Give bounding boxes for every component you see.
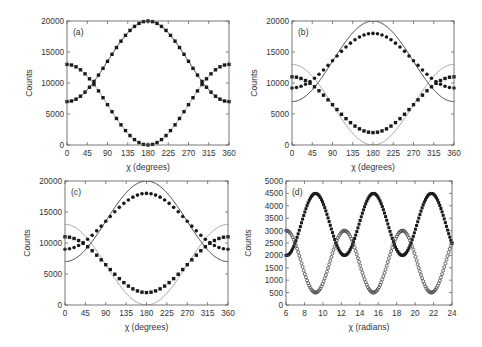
y-tick-label: 15000 [266, 48, 289, 57]
panel-d: 6810121416182022240500100015002000250030… [243, 177, 457, 332]
x-tick-label: 90 [328, 149, 338, 158]
y-tick-label: 1500 [265, 264, 284, 273]
x-tick-label: 18 [392, 309, 402, 318]
y-tick-label: 5000 [265, 177, 284, 186]
y-tick-label: 15000 [41, 48, 64, 57]
y-tick-label: 5000 [44, 270, 63, 279]
y-tick-label: 0 [57, 301, 62, 310]
x-tick-label: 12 [337, 309, 347, 318]
y-tick-label: 0 [284, 141, 289, 150]
x-tick-label: 225 [160, 309, 174, 318]
panel-label: (d) [292, 187, 303, 197]
x-tick-label: 270 [180, 309, 194, 318]
series-data-falling [290, 75, 455, 134]
x-tick-label: 0 [290, 149, 295, 158]
y-tick-label: 4000 [265, 202, 284, 211]
x-tick-label: 225 [386, 149, 400, 158]
x-tick-label: 270 [182, 149, 196, 158]
x-tick-label: 16 [374, 309, 384, 318]
y-axis-label: Counts [249, 69, 259, 96]
y-tick-label: 10000 [41, 79, 64, 88]
y-tick-label: 0 [59, 141, 64, 150]
plot-frame [65, 181, 228, 305]
plot-frame [292, 21, 454, 145]
y-tick-label: 3000 [265, 227, 284, 236]
y-tick-label: 10000 [39, 239, 62, 248]
y-tick-label: 15000 [39, 208, 62, 217]
y-tick-label: 10000 [266, 79, 289, 88]
x-tick-label: 45 [308, 149, 318, 158]
x-tick-label: 135 [346, 149, 360, 158]
x-tick-label: 6 [284, 309, 289, 318]
x-axis-label: χ (degrees) [126, 162, 170, 172]
y-tick-label: 500 [269, 289, 283, 298]
panel-label: (a) [73, 27, 84, 37]
x-tick-label: 90 [103, 149, 113, 158]
panel-label: (b) [298, 27, 309, 37]
y-tick-label: 4500 [265, 189, 284, 198]
y-tick-label: 20000 [39, 177, 62, 186]
plot-frame [67, 21, 229, 145]
figure: 0459013518022527031536005000100001500020… [0, 0, 482, 347]
y-axis-label: Counts [24, 69, 34, 96]
x-tick-label: 360 [447, 149, 461, 158]
panel-b: 0459013518022527031536005000100001500020… [249, 17, 461, 172]
y-tick-label: 2500 [265, 239, 284, 248]
y-tick-label: 5000 [271, 110, 290, 119]
series-data-falling [63, 235, 229, 294]
x-tick-label: 225 [161, 149, 175, 158]
x-axis-label: χ (degrees) [351, 162, 395, 172]
x-axis-label: χ (degrees) [125, 322, 169, 332]
x-tick-label: 90 [101, 309, 111, 318]
x-tick-label: 0 [63, 309, 68, 318]
series-data-rising [63, 192, 230, 251]
series-data-rising [65, 19, 230, 103]
x-tick-label: 360 [222, 149, 236, 158]
panel-c: 0459013518022527031536005000100001500020… [22, 177, 235, 332]
x-axis-label: χ (radians) [349, 322, 390, 332]
y-tick-label: 3500 [265, 214, 284, 223]
x-tick-label: 8 [302, 309, 307, 318]
theory-line [67, 21, 229, 102]
theory-line [67, 64, 229, 145]
x-tick-label: 45 [83, 149, 93, 158]
series-data-lower [285, 229, 454, 294]
series-data-rising [290, 32, 456, 90]
y-tick-label: 2000 [265, 251, 284, 260]
y-tick-label: 5000 [46, 110, 65, 119]
x-tick-label: 0 [65, 149, 70, 158]
x-tick-label: 10 [318, 309, 328, 318]
x-tick-label: 14 [355, 309, 365, 318]
x-tick-label: 315 [427, 149, 441, 158]
y-tick-label: 20000 [266, 17, 289, 26]
y-tick-label: 1000 [265, 276, 284, 285]
x-tick-label: 180 [141, 149, 155, 158]
y-tick-label: 20000 [41, 17, 64, 26]
series-data-falling [65, 63, 230, 147]
y-tick-label: 0 [278, 301, 283, 310]
x-tick-label: 360 [221, 309, 235, 318]
x-tick-label: 315 [201, 309, 215, 318]
x-tick-label: 22 [429, 309, 439, 318]
panel-label: (c) [71, 187, 81, 197]
x-tick-label: 24 [447, 309, 457, 318]
x-tick-label: 180 [140, 309, 154, 318]
x-tick-label: 135 [119, 309, 133, 318]
x-tick-label: 45 [81, 309, 91, 318]
panel-a: 0459013518022527031536005000100001500020… [24, 17, 236, 172]
x-tick-label: 180 [366, 149, 380, 158]
y-axis-label: Counts [22, 229, 32, 256]
series-data-upper [285, 192, 454, 257]
x-tick-label: 270 [407, 149, 421, 158]
x-tick-label: 20 [411, 309, 421, 318]
x-tick-label: 315 [202, 149, 216, 158]
x-tick-label: 135 [121, 149, 135, 158]
y-axis-label: Counts [243, 229, 253, 256]
